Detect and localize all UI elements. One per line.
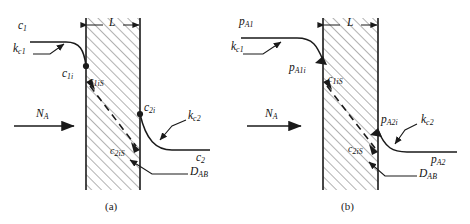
label-a-interface-left: c1i xyxy=(62,68,73,80)
label-b-diffusivity: DAB xyxy=(419,168,437,180)
slab-b xyxy=(323,18,378,190)
leader-b-kc1 xyxy=(243,42,281,54)
label-a-surface-right: c2iS xyxy=(110,146,125,156)
leader-a-kc1 xyxy=(33,44,64,54)
leader-b-kc2 xyxy=(395,124,417,144)
label-a-interface-right: c2i xyxy=(144,102,155,114)
label-a-bulk-right: c2 xyxy=(196,152,205,164)
label-b-coef-right: kc2 xyxy=(421,114,434,126)
label-a-flux: NA xyxy=(36,108,49,120)
panel-b: pA1 kc1 pA1i c1iS c2iS pA2i kc2 pA2 DAB … xyxy=(235,0,470,224)
label-b-thickness: L xyxy=(347,17,353,29)
label-b-interface-right: pA2i xyxy=(381,114,398,126)
slab-a xyxy=(86,18,140,190)
label-b-surface-left: c1iS xyxy=(328,74,343,84)
label-b-interface-left: pA1i xyxy=(289,62,306,74)
label-a-thickness: L xyxy=(109,17,115,29)
label-b-flux: NA xyxy=(265,108,278,120)
label-b-bulk-right: pA2 xyxy=(431,154,446,166)
leader-a-kc2 xyxy=(160,120,186,140)
label-b-surface-right: c2iS xyxy=(348,144,363,154)
label-b-bulk-left: pA1 xyxy=(239,16,254,28)
label-a-coef-right: kc2 xyxy=(188,110,201,122)
label-b-coef-left: kc1 xyxy=(231,41,244,53)
label-a-surface-left: c1iS xyxy=(89,76,104,86)
label-a-diffusivity: DAB xyxy=(190,166,208,178)
profile-b-right xyxy=(378,130,457,152)
caption-b: (b) xyxy=(341,200,354,212)
figure-container: c1 kc1 c1i c1iS c2iS c2i kc2 c2 DAB NA L xyxy=(0,0,470,224)
label-a-bulk-left: c1 xyxy=(18,20,27,32)
panel-a: c1 kc1 c1i c1iS c2iS c2i kc2 c2 DAB NA L xyxy=(0,0,235,224)
profile-b-left xyxy=(241,38,323,60)
caption-a: (a) xyxy=(105,200,117,212)
point-a-c1i xyxy=(83,63,89,69)
label-a-coef-left: kc1 xyxy=(13,43,26,55)
